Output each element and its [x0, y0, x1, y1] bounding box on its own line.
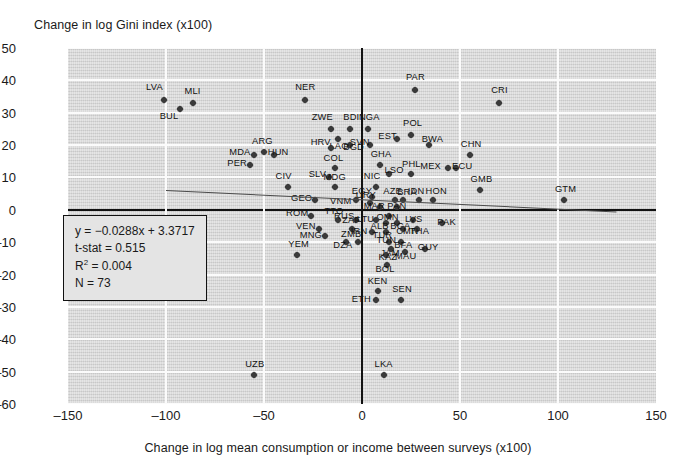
data-point-label: ECU — [452, 162, 472, 171]
data-point-label: UZB — [245, 360, 264, 369]
data-point-label: POL — [403, 119, 422, 128]
data-point-label: THA — [410, 227, 429, 236]
data-point-label: BDI — [343, 113, 359, 122]
stat-tstat: t-stat = 0.515 — [75, 240, 195, 257]
stat-n: N = 73 — [75, 275, 195, 292]
data-point-label: PHL — [402, 160, 421, 169]
data-point-label: PAR — [406, 73, 425, 82]
data-point-label: MEX — [420, 162, 441, 171]
data-point-label: GHA — [371, 150, 392, 159]
x-tick-label: 150 — [645, 408, 667, 423]
data-point-label: ARG — [252, 137, 273, 146]
data-point-label: MLI — [184, 87, 200, 96]
y-tick-label: 10 — [0, 170, 16, 185]
data-point-label: EST — [378, 132, 397, 141]
data-point-label: NIC — [364, 172, 381, 181]
y-tick-label: 30 — [0, 105, 16, 120]
data-point-label: PER — [227, 159, 247, 168]
data-point-label: BUL — [160, 112, 179, 121]
data-point-label: MDA — [229, 148, 250, 157]
y-tick-label: 40 — [0, 73, 16, 88]
data-point-label: ZAF — [342, 216, 360, 225]
gridline-vertical — [557, 48, 559, 404]
data-point-label: LKA — [375, 360, 393, 369]
stat-rsquared-value: = 0.004 — [88, 259, 132, 273]
data-point-label: PAN — [387, 202, 406, 211]
x-tick-label: –150 — [54, 408, 83, 423]
data-point-label: BWA — [422, 135, 443, 144]
data-point-label: LVS — [405, 215, 422, 224]
regression-stats-box: y = −0.0288x + 3.3717 t-stat = 0.515 R2 … — [63, 215, 207, 301]
data-point-label: GMB — [471, 175, 493, 184]
data-point-label: CIV — [276, 172, 292, 181]
data-point-label: GTM — [555, 185, 576, 194]
y-axis-title: Change in log Gini index (x100) — [34, 18, 212, 32]
data-point-label: KAZ — [379, 253, 398, 262]
data-point-label: COL — [324, 154, 344, 163]
data-point-label: ZWE — [312, 113, 333, 122]
data-point-label: LVA — [146, 83, 163, 92]
y-tick-label: –30 — [0, 299, 16, 314]
gridline-vertical — [459, 48, 461, 404]
data-point-label: YEM — [288, 240, 309, 249]
data-point-label: SEN — [392, 285, 412, 294]
data-point-label: BGD — [343, 143, 364, 152]
y-tick-label: –50 — [0, 364, 16, 379]
x-tick-label: 50 — [453, 408, 467, 423]
y-tick-label: 50 — [0, 41, 16, 56]
data-point-label: ROM — [286, 209, 308, 218]
x-tick-label: –50 — [253, 408, 275, 423]
data-point-label: KEN — [368, 277, 388, 286]
data-point-label: ETH — [352, 295, 371, 304]
data-point-label: PAK — [437, 218, 456, 227]
y-tick-label: –20 — [0, 267, 16, 282]
stat-equation: y = −0.0288x + 3.3717 — [75, 223, 195, 240]
gridline-vertical — [263, 48, 265, 404]
data-point-label: MDG — [324, 173, 346, 182]
data-point-label: HUN — [268, 148, 289, 157]
scatter-chart-figure: Change in log Gini index (x100) LVAMLIBU… — [0, 0, 676, 469]
data-point-label: MAR — [364, 202, 385, 211]
data-point-label: CHN — [461, 140, 482, 149]
y-tick-label: –60 — [0, 397, 16, 412]
data-point-label: NGA — [359, 113, 380, 122]
data-point-label: TUN — [376, 236, 396, 245]
data-point-label: HRV — [311, 138, 331, 147]
x-tick-label: –100 — [152, 408, 181, 423]
y-tick-label: 20 — [0, 138, 16, 153]
stat-rsquared-symbol: R — [75, 259, 84, 273]
data-point-label: NER — [295, 83, 315, 92]
x-axis-title: Change in log mean consumption or income… — [0, 441, 676, 455]
y-tick-label: –10 — [0, 235, 16, 250]
y-tick-label: 0 — [0, 202, 16, 217]
data-point-label: LSO — [384, 166, 403, 175]
data-point-label: CRI — [491, 86, 508, 95]
data-point-label: BOL — [375, 265, 394, 274]
data-point-label: GUY — [418, 243, 439, 252]
x-tick-label: 100 — [547, 408, 569, 423]
data-point-label: DZA — [333, 241, 352, 250]
data-point-label: IDN — [408, 187, 425, 196]
data-point-label: ZMB — [341, 230, 361, 239]
stat-rsquared: R2 = 0.004 — [75, 257, 195, 275]
data-point-label: MAU — [395, 252, 416, 261]
x-tick-label: 0 — [358, 408, 365, 423]
data-point-label: HON — [426, 187, 447, 196]
y-tick-label: –40 — [0, 332, 16, 347]
